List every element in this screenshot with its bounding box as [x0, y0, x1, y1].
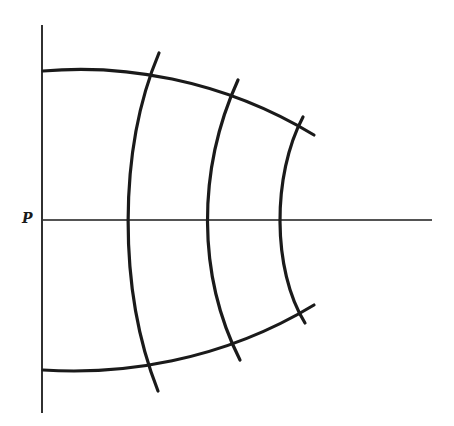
- upper-boundary: [43, 69, 314, 135]
- lower-boundary: [43, 305, 314, 371]
- point-label-p: P: [22, 210, 33, 226]
- diagram-canvas: [0, 0, 454, 426]
- arc-1: [128, 53, 159, 391]
- curve-group: [43, 53, 314, 391]
